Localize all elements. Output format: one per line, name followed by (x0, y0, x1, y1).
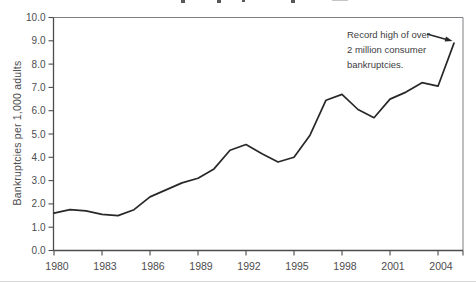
x-tick-label: 2001 (381, 260, 405, 272)
annotation-arrow-icon (445, 36, 453, 41)
y-tick-label: 5.0 (32, 129, 46, 140)
annotation-line-2: 2 million consumer (347, 42, 430, 57)
x-tick-label: 1998 (333, 260, 357, 272)
x-tick-label: 1992 (237, 260, 261, 272)
x-tick-label: 1995 (285, 260, 309, 272)
annotation-callout: Record high of over 2 million consumer b… (347, 27, 430, 72)
x-tick-label: 1980 (45, 260, 69, 272)
y-tick-label: 2.0 (32, 198, 46, 209)
y-tick-label: 1.0 (32, 222, 46, 233)
y-axis-title: Bankruptcies per 1,000 adults (11, 13, 23, 253)
y-tick-label: 3.0 (32, 175, 46, 186)
y-tick-label: 0.0 (32, 245, 46, 256)
y-tick-label: 7.0 (32, 82, 46, 93)
x-tick-label: 1989 (189, 260, 213, 272)
y-tick-label: 8.0 (32, 59, 46, 70)
bottom-rule (0, 281, 476, 282)
y-tick-label: 10.0 (26, 12, 46, 23)
y-tick-label: 6.0 (32, 105, 46, 116)
x-tick-label: 1986 (141, 260, 165, 272)
annotation-line-1: Record high of over (347, 27, 430, 42)
annotation-line-3: bankruptcies. (347, 57, 430, 72)
annotation-arrow-shaft (427, 34, 447, 40)
y-tick-label: 4.0 (32, 152, 46, 163)
y-tick-label: 9.0 (32, 35, 46, 46)
x-tick-label: 2004 (429, 260, 453, 272)
x-tick-label: 1983 (93, 260, 117, 272)
line-chart-figure: 0.01.02.03.04.05.06.07.08.09.010.0198019… (0, 0, 476, 284)
